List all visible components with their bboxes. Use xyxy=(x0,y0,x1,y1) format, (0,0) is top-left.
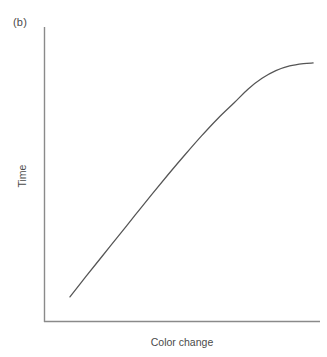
y-axis-label: Time xyxy=(16,146,28,206)
figure-panel-b: (b) Time Color change xyxy=(0,0,327,357)
plot-area xyxy=(0,0,327,357)
data-curve-line xyxy=(70,63,313,297)
x-axis-label: Color change xyxy=(44,336,320,348)
